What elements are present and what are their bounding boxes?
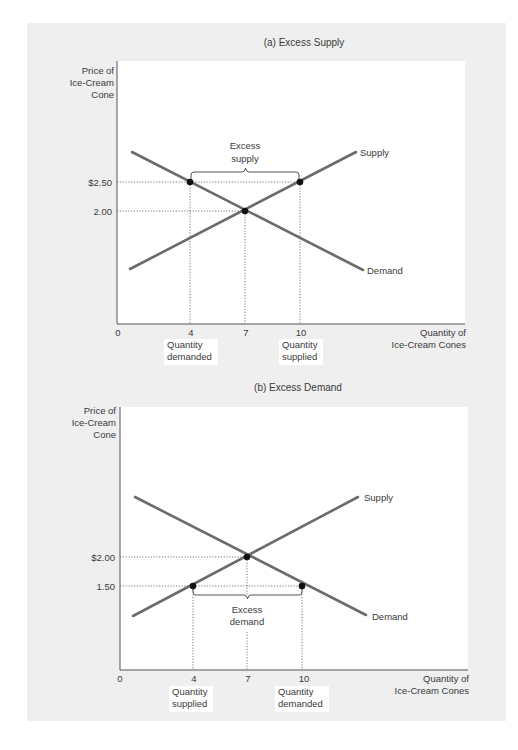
supply-label-b: Supply — [364, 492, 393, 503]
excess-supply-label-line2: supply — [231, 153, 259, 164]
equilibrium-point-a — [242, 208, 249, 215]
panel-b-title: (b) Excess Demand — [254, 382, 342, 393]
quantity-demanded-point-a — [187, 179, 194, 186]
panel-a-excess-supply: (a) Excess Supply Price of Ice-Cream Con… — [70, 37, 467, 365]
quantity-supplied-label-b-line2: supplied — [172, 698, 207, 709]
x-tick-a-10: 10 — [296, 327, 307, 338]
equilibrium-point-b — [244, 554, 251, 561]
panel-b-excess-demand: (b) Excess Demand Price of Ice-Cream Con… — [72, 382, 470, 712]
quantity-supplied-point-a — [297, 179, 304, 186]
y-tick-b-2.00: $2.00 — [91, 552, 115, 563]
x-tick-b-7: 7 — [245, 673, 250, 684]
excess-supply-label-line1: Excess — [230, 140, 261, 151]
y-axis-label-b-line2: Ice-Cream — [72, 417, 116, 428]
panel-a-title: (a) Excess Supply — [264, 37, 345, 48]
x-tick-a-0: 0 — [115, 327, 120, 338]
demand-label-b: Demand — [372, 611, 408, 622]
x-tick-a-4: 4 — [188, 327, 193, 338]
quantity-demanded-label-a-line1: Quantity — [167, 339, 203, 350]
y-axis-label-a-line1: Price of — [82, 65, 115, 76]
supply-label-a: Supply — [360, 147, 389, 158]
x-axis-label-a-line2: Ice-Cream Cones — [392, 339, 467, 350]
y-tick-b-1.50: 1.50 — [97, 581, 116, 592]
y-tick-a-2.50: $2.50 — [88, 177, 112, 188]
quantity-supplied-label-b-line1: Quantity — [172, 686, 208, 697]
y-axis-label-a-line3: Cone — [91, 89, 114, 100]
x-axis-label-a-line1: Quantity of — [420, 327, 466, 338]
plot-area-b — [120, 407, 468, 670]
quantity-demanded-label-a-line2: demanded — [167, 351, 212, 362]
quantity-demanded-label-b-line2: demanded — [278, 698, 323, 709]
excess-demand-label-line1: Excess — [232, 604, 263, 615]
x-tick-b-10: 10 — [299, 673, 310, 684]
y-axis-label-b-line1: Price of — [84, 405, 117, 416]
x-tick-b-0: 0 — [117, 673, 122, 684]
demand-label-a: Demand — [367, 265, 403, 276]
x-tick-b-4: 4 — [191, 673, 196, 684]
y-axis-label-a-line2: Ice-Cream — [70, 77, 114, 88]
y-tick-a-2.00: 2.00 — [94, 206, 113, 217]
quantity-demanded-label-b-line1: Quantity — [278, 686, 314, 697]
x-axis-label-b-line1: Quantity of — [423, 673, 469, 684]
quantity-supplied-label-a-line2: supplied — [282, 351, 317, 362]
quantity-demanded-point-b — [299, 583, 306, 590]
figure: (a) Excess Supply Price of Ice-Cream Con… — [0, 0, 518, 750]
x-axis-label-b-line2: Ice-Cream Cones — [395, 685, 470, 696]
quantity-supplied-label-a-line1: Quantity — [282, 339, 318, 350]
plot-area-a — [117, 61, 465, 324]
excess-demand-label-line2: demand — [230, 616, 264, 627]
y-axis-label-b-line3: Cone — [93, 429, 116, 440]
quantity-supplied-point-b — [190, 583, 197, 590]
x-tick-a-7: 7 — [243, 327, 248, 338]
